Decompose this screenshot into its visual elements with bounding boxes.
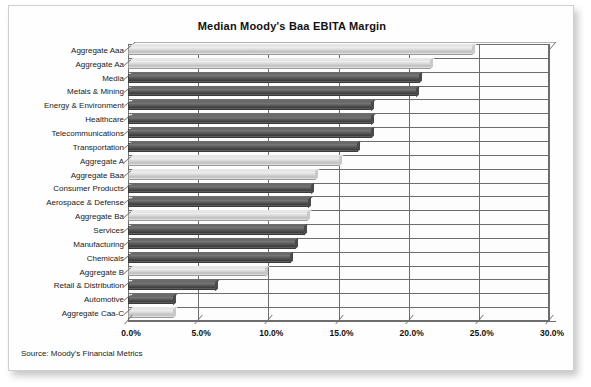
bar-top-face [129,252,294,255]
x-axis-label: 15.0% [320,328,364,338]
chart-title: Median Moody's Baa EBITA Margin [9,20,575,32]
bar-top-face [129,141,361,144]
bar-row [128,293,549,307]
bar-row [128,196,549,210]
bar-top-face [129,127,376,130]
bar-end-cap [416,86,419,97]
bar-top-face [129,266,269,269]
bar-end-cap [311,183,314,194]
bar-top-face [129,155,343,158]
bar-row [128,210,549,224]
bar-end-cap [308,196,311,207]
bar-row [128,113,549,127]
bar[interactable] [128,240,296,249]
bar-row [128,155,549,169]
bar-top-face [129,294,178,297]
bar[interactable] [128,116,372,125]
y-axis-label: Media [9,74,124,84]
bar-row [128,183,549,197]
bar[interactable] [128,296,174,305]
y-axis-label: Automotive [9,295,124,305]
bar-row [128,224,549,238]
bar[interactable] [128,102,372,111]
y-axis-label: Transportation [9,143,124,153]
bar-row [128,279,549,293]
bar[interactable] [128,185,312,194]
bar-top-face [129,169,319,172]
bar-end-cap [295,238,298,249]
bar-row [128,238,549,252]
bar[interactable] [128,157,340,166]
source-note: Source: Moody's Financial Metrics [21,349,143,358]
bar[interactable] [128,171,316,180]
y-axis-label: Aggregate B [9,268,124,278]
y-axis-label: Services [9,226,124,236]
y-axis-label: Energy & Environment [9,101,124,111]
bar-row [128,252,549,266]
bar-row [128,266,549,280]
bar[interactable] [128,143,358,152]
bar-end-cap [371,100,374,111]
y-axis-label: Aerospace & Defense [9,198,124,208]
bar-top-face [129,58,434,61]
bar-end-cap [357,141,360,152]
bar-row [128,44,549,58]
bar-end-cap [173,293,176,304]
bar-top-face [129,280,220,283]
bar-end-cap [371,127,374,138]
bar-top-face [129,100,376,103]
x-axis-label: 0.0% [109,328,153,338]
y-axis-label: Aggregate Ba [9,212,124,222]
bar-top-face [129,307,178,310]
bar[interactable] [128,60,431,69]
y-axis-label: Aggregate Aaa [9,46,124,56]
bar-top-face [129,224,308,227]
bar[interactable] [128,309,174,318]
x-axis-label: 30.0% [530,328,574,338]
bar-top-face [129,44,477,47]
x-axis-label: 10.0% [249,328,293,338]
bar-end-cap [430,58,433,69]
y-axis-label: Manufacturing [9,240,124,250]
bar[interactable] [128,254,291,263]
bar-top-face [129,72,423,75]
gridline-vertical [549,44,550,321]
bar-end-cap [307,210,310,221]
bar-end-cap [215,280,218,291]
bar[interactable] [128,268,266,277]
bar[interactable] [128,199,309,208]
bar-end-cap [173,307,176,318]
bars-layer [128,44,549,321]
bar-end-cap [290,252,293,263]
bar[interactable] [128,74,420,83]
y-axis-label: Aggregate A [9,157,124,167]
bar[interactable] [128,212,308,221]
bar-top-face [129,183,315,186]
bar-end-cap [339,155,342,166]
x-axis-line [128,321,556,322]
bar-top-face [129,86,420,89]
bar[interactable] [128,88,417,97]
bar-top-face [129,197,312,200]
x-axis-label: 20.0% [390,328,434,338]
x-axis-label: 5.0% [179,328,223,338]
bar-row [128,72,549,86]
bar-row [128,141,549,155]
bar[interactable] [128,226,305,235]
bar-end-cap [265,266,268,277]
screenshot-root: Median Moody's Baa EBITA Margin Aggregat… [0,0,591,387]
bar-top-face [129,114,376,117]
y-axis-label: Metals & Mining [9,87,124,97]
bar-end-cap [419,72,422,83]
y-axis-label: Aggregate Caa-C [9,309,124,319]
chart-card: Median Moody's Baa EBITA Margin Aggregat… [8,5,574,371]
bar[interactable] [128,129,372,138]
bar-top-face [129,210,311,213]
bar-row [128,127,549,141]
bar-top-face [129,238,300,241]
bar[interactable] [128,282,216,291]
bar-end-cap [304,224,307,235]
bar[interactable] [128,46,473,55]
y-axis-label: Chemicals [9,254,124,264]
y-axis-labels: Aggregate AaaAggregate AaMediaMetals & M… [9,44,124,321]
